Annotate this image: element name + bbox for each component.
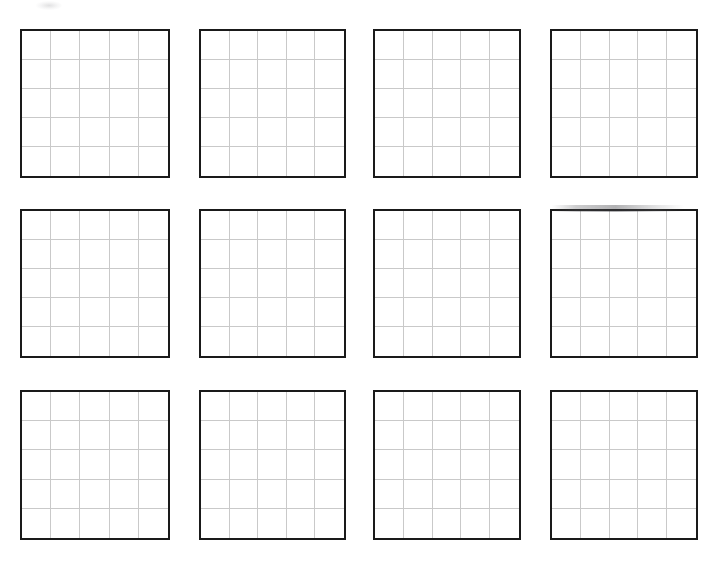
grid-cell[interactable] [375,421,404,450]
grid-cell[interactable] [375,211,404,240]
grid-cell[interactable] [22,480,51,509]
grid-cell[interactable] [610,298,639,327]
grid-cell[interactable] [375,147,404,176]
grid-cell[interactable] [404,240,433,269]
grid-cell[interactable] [201,480,230,509]
grid-cell[interactable] [315,509,344,538]
grid-cell[interactable] [51,211,80,240]
grid-cell[interactable] [461,421,490,450]
grid-cell[interactable] [51,31,80,60]
grid-cell[interactable] [315,240,344,269]
grid-cell[interactable] [638,421,667,450]
grid-cell[interactable] [461,509,490,538]
grid-cell[interactable] [552,60,581,89]
grid-cell[interactable] [110,211,139,240]
grid-cell[interactable] [22,450,51,479]
grid-cell[interactable] [22,327,51,356]
grid-cell[interactable] [287,450,316,479]
grid-cell[interactable] [552,450,581,479]
grid-cell[interactable] [375,298,404,327]
grid-cell[interactable] [258,509,287,538]
grid-cell[interactable] [404,211,433,240]
grid-cell[interactable] [638,211,667,240]
grid-cell[interactable] [404,118,433,147]
grid-cell[interactable] [51,240,80,269]
grid-cell[interactable] [22,392,51,421]
grid-cell[interactable] [315,421,344,450]
grid-cell[interactable] [110,421,139,450]
grid-cell[interactable] [404,450,433,479]
grid-cell[interactable] [139,480,168,509]
grid-cell[interactable] [581,298,610,327]
grid-cell[interactable] [139,509,168,538]
grid-cell[interactable] [667,480,696,509]
grid-cell[interactable] [201,147,230,176]
grid-cell[interactable] [287,240,316,269]
grid-cell[interactable] [258,269,287,298]
grid-cell[interactable] [22,509,51,538]
grid-cell[interactable] [230,421,259,450]
grid-cell[interactable] [490,240,519,269]
grid-cell[interactable] [610,392,639,421]
grid-cell[interactable] [433,298,462,327]
grid-cell[interactable] [461,240,490,269]
grid-cell[interactable] [581,211,610,240]
grid-cell[interactable] [80,450,109,479]
grid-cell[interactable] [51,327,80,356]
grid-cell[interactable] [287,31,316,60]
grid-board[interactable] [20,209,170,358]
grid-cell[interactable] [139,147,168,176]
grid-cell[interactable] [51,450,80,479]
grid-cell[interactable] [581,480,610,509]
grid-cell[interactable] [287,327,316,356]
grid-cell[interactable] [80,240,109,269]
grid-cell[interactable] [139,327,168,356]
grid-cell[interactable] [287,211,316,240]
grid-cell[interactable] [287,60,316,89]
grid-cell[interactable] [139,392,168,421]
grid-cell[interactable] [461,60,490,89]
grid-cell[interactable] [433,240,462,269]
grid-cell[interactable] [315,89,344,118]
grid-cell[interactable] [80,421,109,450]
grid-board[interactable] [20,390,170,540]
grid-cell[interactable] [490,31,519,60]
grid-cell[interactable] [110,450,139,479]
grid-cell[interactable] [258,421,287,450]
grid-cell[interactable] [110,509,139,538]
grid-cell[interactable] [201,118,230,147]
grid-cell[interactable] [667,118,696,147]
grid-cell[interactable] [404,421,433,450]
grid-cell[interactable] [610,269,639,298]
grid-cell[interactable] [461,118,490,147]
grid-cell[interactable] [315,60,344,89]
grid-cell[interactable] [258,298,287,327]
grid-cell[interactable] [581,89,610,118]
grid-board[interactable] [20,29,170,178]
grid-cell[interactable] [490,421,519,450]
grid-board[interactable] [550,209,698,358]
grid-cell[interactable] [315,327,344,356]
grid-cell[interactable] [490,450,519,479]
grid-cell[interactable] [51,89,80,118]
grid-cell[interactable] [110,89,139,118]
grid-cell[interactable] [230,60,259,89]
grid-cell[interactable] [22,31,51,60]
grid-cell[interactable] [581,118,610,147]
grid-cell[interactable] [375,480,404,509]
grid-cell[interactable] [404,147,433,176]
grid-cell[interactable] [110,31,139,60]
grid-cell[interactable] [461,31,490,60]
grid-cell[interactable] [287,480,316,509]
grid-cell[interactable] [433,89,462,118]
grid-cell[interactable] [110,240,139,269]
grid-cell[interactable] [552,89,581,118]
grid-board[interactable] [373,29,521,178]
grid-cell[interactable] [230,392,259,421]
grid-cell[interactable] [80,392,109,421]
grid-cell[interactable] [433,450,462,479]
grid-cell[interactable] [461,298,490,327]
grid-cell[interactable] [80,269,109,298]
grid-cell[interactable] [461,269,490,298]
grid-cell[interactable] [258,450,287,479]
